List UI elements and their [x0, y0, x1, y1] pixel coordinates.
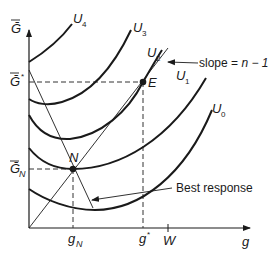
- g-bar-star-label: Ḡ *: [10, 72, 24, 89]
- svg-text:*: *: [147, 230, 150, 239]
- svg-text:Ḡ: Ḡ: [11, 21, 21, 36]
- curve-u4: [29, 24, 72, 62]
- u4-label: U 4: [73, 11, 87, 29]
- u2-label: U 2: [147, 45, 161, 63]
- point-e-label: E: [148, 75, 157, 90]
- g-n-tick-label: g N: [68, 231, 83, 249]
- u3-label: U 3: [133, 20, 147, 38]
- g-bar-n-label: Ḡ N: [10, 161, 26, 179]
- w-tick-label: W: [163, 233, 177, 248]
- g-star-tick-label: g *: [139, 230, 150, 246]
- slope-annotation-arrow: [168, 62, 198, 63]
- point-n-label: N: [69, 150, 79, 165]
- svg-text:g: g: [139, 231, 147, 246]
- diagram-canvas: Ḡ g Ḡ * Ḡ N g N g * W U 4 U 3 U 2 U 1…: [0, 0, 273, 253]
- slope-annotation: slope = n − 1: [199, 56, 268, 70]
- x-axis-label: g: [242, 234, 250, 249]
- y-axis-label: Ḡ: [11, 20, 21, 36]
- best-response-annotation: Best response: [176, 181, 253, 195]
- svg-text:slope = n − 1: slope = n − 1: [199, 56, 268, 70]
- u1-label: U 1: [176, 68, 190, 86]
- svg-text:Ḡ: Ḡ: [10, 74, 20, 89]
- best-response-annotation-arrow: [92, 188, 172, 200]
- curve-u2: [29, 50, 162, 139]
- svg-text:3: 3: [142, 29, 147, 38]
- curve-u1: [29, 78, 206, 169]
- point-n: [70, 166, 77, 173]
- svg-text:2: 2: [156, 54, 161, 63]
- svg-text:N: N: [19, 169, 26, 179]
- svg-text:0: 0: [221, 110, 226, 119]
- point-e: [140, 79, 147, 86]
- svg-text:*: *: [21, 72, 24, 81]
- svg-text:4: 4: [82, 20, 87, 29]
- u0-label: U 0: [212, 101, 226, 119]
- svg-text:g: g: [68, 231, 76, 246]
- curve-u3: [29, 30, 131, 104]
- svg-text:N: N: [76, 239, 83, 249]
- svg-text:1: 1: [185, 77, 190, 86]
